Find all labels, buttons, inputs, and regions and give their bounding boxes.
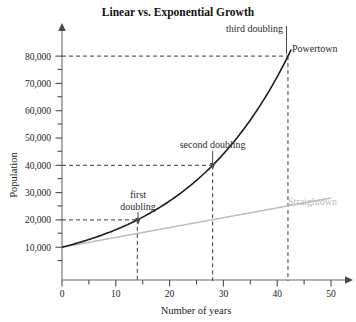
x-tick-label-10: 10 <box>111 289 121 299</box>
y-axis-arrowhead <box>58 23 66 31</box>
series-label-powertown: Powertown <box>292 43 338 54</box>
second-doubling-label: second doubling <box>180 139 246 150</box>
y-axis-tick-labels: 80,000 70,000 60,000 50,000 40,000 30,00… <box>25 52 51 253</box>
x-tick-label-50: 50 <box>326 289 336 299</box>
series-curve-powertown <box>62 50 291 248</box>
linear-vs-exponential-growth-chart: Linear vs. Exponential Growth <box>0 0 356 322</box>
x-tick-label-40: 40 <box>272 289 282 299</box>
y-tick-label-80000: 80,000 <box>25 52 51 62</box>
first-doubling-label-line1: first <box>130 189 146 200</box>
y-tick-label-50000: 50,000 <box>25 133 51 143</box>
x-tick-label-0: 0 <box>60 289 65 299</box>
annotation-third-doubling: third doubling <box>226 23 286 54</box>
annotation-first-doubling: first doubling <box>120 189 156 225</box>
y-axis-title: Population <box>8 152 19 198</box>
y-tick-label-40000: 40,000 <box>25 161 51 171</box>
chart-figure: Linear vs. Exponential Growth <box>0 0 356 322</box>
y-tick-label-70000: 70,000 <box>25 79 51 89</box>
page-title: Linear vs. Exponential Growth <box>102 6 255 19</box>
first-doubling-label-line2: doubling <box>120 201 156 212</box>
x-axis-ticks <box>62 280 331 287</box>
y-tick-label-30000: 30,000 <box>25 188 51 198</box>
x-axis-tick-labels: 0 10 20 30 40 50 <box>60 289 336 299</box>
x-axis-title: Number of years <box>161 305 232 316</box>
y-tick-label-20000: 20,000 <box>25 215 51 225</box>
x-tick-label-20: 20 <box>165 289 175 299</box>
y-tick-label-60000: 60,000 <box>25 106 51 116</box>
axes <box>58 23 353 284</box>
y-tick-label-10000: 10,000 <box>25 243 51 253</box>
y-axis-ticks <box>56 56 63 260</box>
series-label-straightown: Straightown <box>288 196 337 207</box>
x-axis-arrowhead <box>345 276 353 284</box>
doubling-guide-lines <box>62 56 288 281</box>
third-doubling-label: third doubling <box>226 23 283 34</box>
x-tick-label-30: 30 <box>219 289 229 299</box>
